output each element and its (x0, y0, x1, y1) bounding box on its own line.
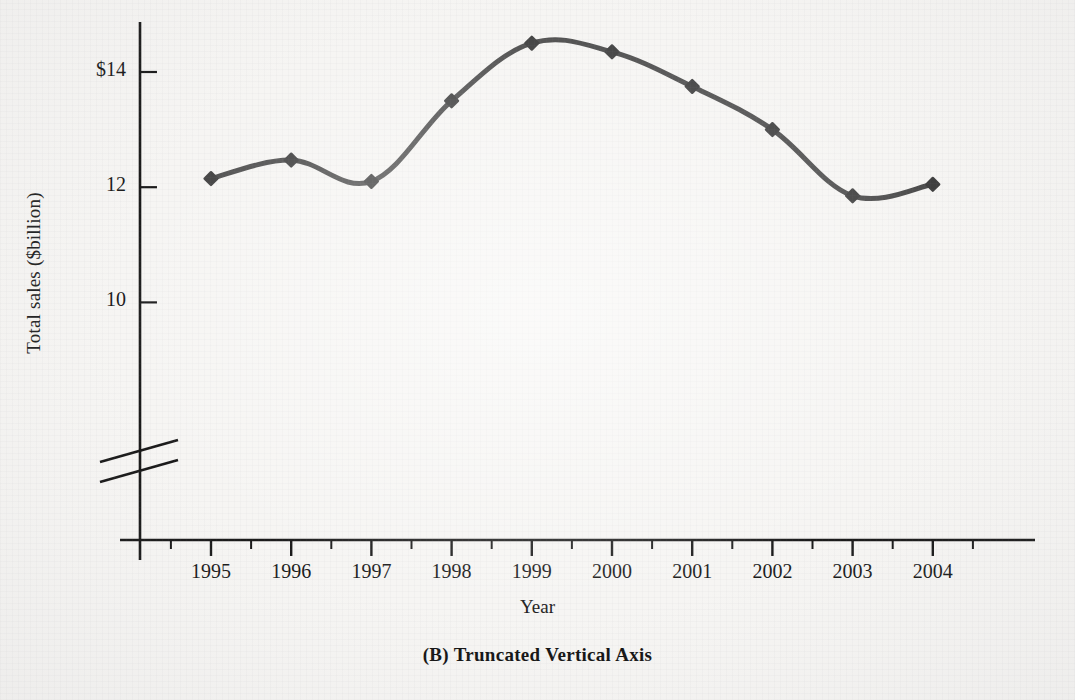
figure-caption: (B) Truncated Vertical Axis (0, 644, 1075, 666)
y-axis-tick-label: 10 (0, 288, 126, 311)
x-axis-ticks (171, 540, 973, 556)
data-point-marker (285, 154, 298, 167)
y-axis-title: Total sales ($billion) (23, 173, 45, 373)
data-point-marker (205, 172, 218, 185)
y-axis-ticks (140, 72, 157, 302)
data-point-marker (606, 45, 619, 58)
x-axis-tick-label: 2004 (883, 560, 983, 583)
chart-canvas (0, 0, 1075, 700)
sales-data-markers (205, 37, 940, 202)
data-point-marker (846, 189, 859, 202)
x-axis-title: Year (0, 596, 1075, 618)
data-point-marker (525, 37, 538, 50)
y-axis-tick-label: 12 (0, 173, 126, 196)
data-point-marker (926, 178, 939, 191)
line-chart-figure: $141210 19951996199719981999200020012002… (0, 0, 1075, 700)
sales-trend-line (211, 40, 933, 199)
y-axis-tick-label: $14 (0, 58, 126, 81)
